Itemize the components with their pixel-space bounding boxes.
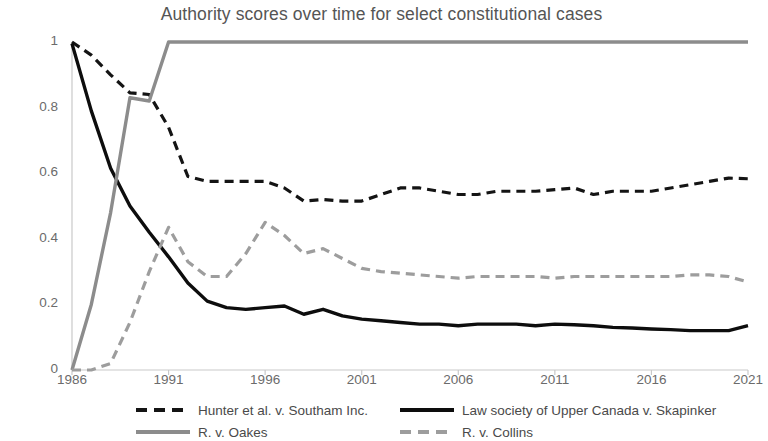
y-axis-tick-label: 0.2	[12, 295, 58, 310]
legend-label-hunter: Hunter et al. v. Southam Inc.	[198, 403, 368, 418]
x-axis-tick-label: 2006	[428, 372, 488, 387]
legend-swatch-skapinker	[400, 404, 454, 416]
x-axis-tick-label: 2016	[621, 372, 681, 387]
x-axis-tick-label: 2001	[332, 372, 392, 387]
legend-label-collins: R. v. Collins	[462, 425, 533, 440]
plot-area: 00.20.40.60.81 1986199119962001200620112…	[0, 0, 763, 390]
series-line	[72, 222, 748, 370]
x-axis-tick-label: 1986	[42, 372, 102, 387]
y-axis-tick-label: 0.6	[12, 164, 58, 179]
series-line	[72, 42, 748, 370]
y-axis-tick-label: 1	[12, 33, 58, 48]
legend-label-skapinker: Law society of Upper Canada v. Skapinker	[462, 403, 716, 418]
plot-svg	[0, 0, 763, 390]
legend-item-oakes[interactable]: R. v. Oakes	[136, 422, 268, 441]
chart-legend: Hunter et al. v. Southam Inc. Law societ…	[0, 398, 763, 441]
y-axis-tick-label: 0.4	[12, 230, 58, 245]
legend-swatch-hunter	[136, 404, 190, 416]
legend-swatch-collins	[400, 426, 454, 438]
legend-swatch-oakes	[136, 426, 190, 438]
legend-item-collins[interactable]: R. v. Collins	[400, 422, 533, 441]
legend-item-hunter[interactable]: Hunter et al. v. Southam Inc.	[136, 400, 368, 420]
legend-item-skapinker[interactable]: Law society of Upper Canada v. Skapinker	[400, 400, 716, 420]
axis-lines	[72, 42, 748, 375]
x-axis-tick-label: 2021	[718, 372, 768, 387]
series-line	[72, 44, 748, 331]
x-axis-tick-label: 1996	[235, 372, 295, 387]
legend-label-oakes: R. v. Oakes	[198, 425, 268, 440]
x-axis-tick-label: 1991	[139, 372, 199, 387]
series-lines	[72, 42, 748, 370]
series-line	[72, 42, 748, 201]
y-axis-tick-label: 0.8	[12, 99, 58, 114]
x-axis-tick-label: 2011	[525, 372, 585, 387]
